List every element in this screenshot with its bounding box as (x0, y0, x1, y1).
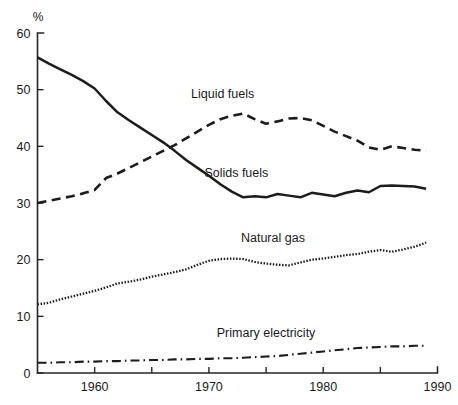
series-label-primary-electricity: Primary electricity (217, 326, 316, 340)
series-lines (38, 57, 427, 362)
x-tick-label: 1980 (309, 380, 337, 394)
y-axis: 0102030405060% (17, 10, 44, 381)
x-tick-label: 1960 (81, 380, 109, 394)
x-axis-line (38, 367, 438, 373)
x-tick-label: 1990 (424, 380, 452, 394)
energy-share-line-chart: 0102030405060% 1960197019801990 Solids f… (0, 0, 458, 405)
y-axis-unit-label: % (33, 10, 44, 24)
y-tick-label: 40 (17, 140, 31, 154)
y-tick-label: 20 (17, 253, 31, 267)
y-tick-label: 10 (17, 310, 31, 324)
series-line-liquid-fuels (38, 113, 427, 203)
series-label-natural-gas: Natural gas (241, 231, 305, 245)
series-line-primary-electricity (38, 346, 427, 363)
y-tick-label: 0 (24, 367, 31, 381)
series-line-natural-gas (38, 243, 427, 305)
y-tick-label: 50 (17, 83, 31, 97)
chart-canvas: 0102030405060% 1960197019801990 Solids f… (0, 0, 458, 405)
y-tick-label: 30 (17, 197, 31, 211)
x-axis: 1960197019801990 (38, 367, 452, 394)
x-tick-label: 1970 (195, 380, 223, 394)
y-tick-label: 60 (17, 27, 31, 41)
series-label-liquid-fuels: Liquid fuels (191, 87, 254, 101)
series-label-solids-fuels: Solids fuels (204, 166, 268, 180)
